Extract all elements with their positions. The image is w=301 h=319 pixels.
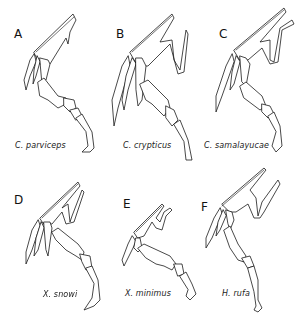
claw-drawing-b xyxy=(100,0,200,160)
panel-b: B C. crypticus xyxy=(100,0,200,160)
panel-d: D X. snowi xyxy=(0,160,100,319)
panel-e: E X. minimus xyxy=(100,160,200,319)
species-label-e: X. minimus xyxy=(125,289,171,298)
claw-drawing-c xyxy=(200,0,301,160)
species-label-d: X. snowi xyxy=(43,290,77,299)
panel-f: F H. rufa xyxy=(200,160,301,319)
claw-drawing-a xyxy=(0,0,100,160)
species-label-c: C. samalayucae xyxy=(204,141,269,150)
panel-c: C C. samalayucae xyxy=(200,0,301,160)
claw-drawing-f xyxy=(200,160,301,319)
species-label-a: C. parviceps xyxy=(15,141,66,150)
species-label-f: H. rufa xyxy=(222,289,250,298)
species-label-b: C. crypticus xyxy=(123,141,171,150)
panel-a: A C. parviceps xyxy=(0,0,100,160)
